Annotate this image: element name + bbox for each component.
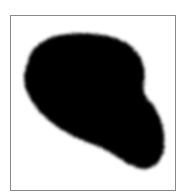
blob-shape (24, 33, 164, 169)
ink-blob (0, 0, 189, 195)
